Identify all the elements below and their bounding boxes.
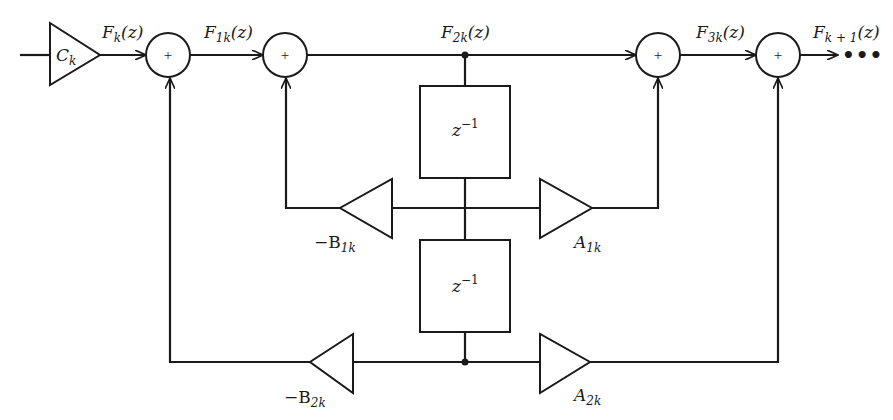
- gain-ck: Ck: [50, 23, 100, 85]
- gain-a1k: A1k: [540, 179, 601, 255]
- wire-a1k-to-summer-3: [592, 78, 658, 208]
- label-fk: Fk(z): [101, 22, 143, 45]
- gain-b2k-label: −B2k: [284, 387, 326, 410]
- gain-a2k-label: A2k: [572, 385, 601, 408]
- continuation-dots: •••: [842, 43, 883, 67]
- summer-3-plus: +: [654, 47, 662, 63]
- delay-1: z−1: [420, 86, 510, 178]
- summer-3: +: [636, 33, 680, 77]
- label-f2k: F2k(z): [440, 22, 490, 45]
- wire-b1k-to-summer-2: [286, 78, 340, 208]
- label-f1k: F1k(z): [203, 22, 253, 45]
- lattice-filter-diagram: Ck Fk(z) + F1k(z) + F2k(z) + F3k(z) + Fk…: [0, 0, 893, 420]
- summer-4-plus: +: [774, 47, 782, 63]
- gain-b1k-label: −B1k: [314, 232, 356, 255]
- gain-b1k: −B1k: [314, 179, 392, 255]
- summer-2-plus: +: [281, 47, 289, 63]
- wire-b2k-to-summer-1: [170, 78, 310, 362]
- summer-1-plus: +: [164, 47, 172, 63]
- gain-b2k: −B2k: [284, 334, 353, 410]
- label-f3k: F3k(z): [695, 22, 745, 45]
- summer-1: +: [146, 33, 190, 77]
- label-fk1: Fk + 1(z): [812, 22, 880, 45]
- delay-2: z−1: [420, 240, 510, 332]
- summer-4: +: [756, 33, 800, 77]
- gain-a1k-label: A1k: [572, 232, 601, 255]
- summer-2: +: [263, 33, 307, 77]
- wire-a2k-to-summer-4: [590, 78, 778, 362]
- gain-a2k: A2k: [540, 334, 601, 408]
